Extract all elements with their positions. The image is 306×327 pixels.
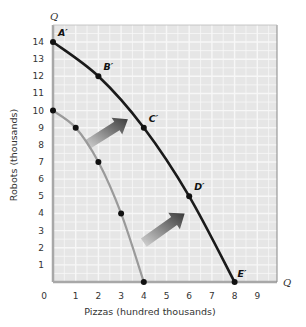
ppf-chart: A′B′C′D′E′ 01234567891234567891011121314… — [0, 0, 306, 327]
x-tick-label: 4 — [141, 291, 147, 301]
x-tick-label: 5 — [164, 291, 170, 301]
point-label: B′ — [103, 61, 113, 72]
data-point — [186, 193, 192, 199]
y-axis-end-label: Q — [50, 11, 58, 22]
data-point — [95, 73, 101, 79]
y-tick-label: 3 — [38, 226, 44, 236]
x-tick-label: 0 — [41, 291, 47, 301]
y-tick-label: 8 — [38, 140, 44, 150]
y-tick-label: 11 — [33, 88, 44, 98]
x-tick-label: 1 — [73, 291, 79, 301]
x-tick-label: 2 — [96, 291, 102, 301]
data-point — [141, 125, 147, 131]
x-tick-label: 8 — [232, 291, 238, 301]
data-point — [50, 108, 56, 114]
y-tick-label: 9 — [38, 123, 44, 133]
point-label: E′ — [238, 268, 247, 279]
point-label: C′ — [149, 113, 159, 124]
data-point — [118, 210, 124, 216]
y-tick-label: 5 — [38, 191, 44, 201]
y-tick-label: 12 — [33, 71, 44, 81]
x-tick-label: 9 — [254, 291, 260, 301]
y-tick-label: 10 — [33, 106, 45, 116]
y-tick-label: 14 — [33, 37, 45, 47]
data-point — [50, 39, 56, 45]
x-axis-title: Pizzas (hundred thousands) — [84, 306, 215, 317]
data-point — [232, 279, 238, 285]
y-axis-title: Robots (thousands) — [8, 109, 19, 201]
data-point — [141, 279, 147, 285]
data-point — [95, 159, 101, 165]
x-tick-label: 7 — [209, 291, 215, 301]
x-axis-end-label: Q — [283, 277, 291, 288]
y-tick-label: 4 — [38, 208, 44, 218]
data-point — [73, 125, 79, 131]
x-tick-label: 3 — [118, 291, 124, 301]
y-tick-label: 2 — [38, 243, 44, 253]
point-label: A′ — [57, 27, 68, 38]
y-tick-label: 7 — [38, 157, 44, 167]
y-tick-label: 6 — [38, 174, 44, 184]
y-tick-label: 13 — [33, 54, 44, 64]
x-tick-label: 6 — [186, 291, 192, 301]
y-tick-label: 1 — [38, 260, 44, 270]
point-label: D′ — [194, 181, 205, 192]
